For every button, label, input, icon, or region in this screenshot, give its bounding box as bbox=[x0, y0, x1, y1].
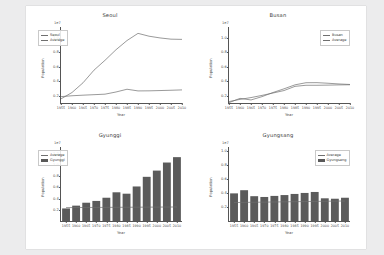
legend-item: Average bbox=[323, 38, 346, 43]
y-axis-tick: 0.8 bbox=[221, 50, 227, 54]
x-axis-tick: 2005 bbox=[331, 224, 339, 228]
tick-mark bbox=[94, 103, 95, 105]
tick-mark bbox=[328, 103, 329, 105]
line-series bbox=[229, 85, 350, 102]
bar bbox=[173, 157, 181, 221]
tick-mark bbox=[234, 221, 235, 223]
x-axis-tick: 1955 bbox=[225, 106, 233, 110]
x-axis-tick: 1965 bbox=[82, 224, 90, 228]
tick-mark bbox=[116, 221, 117, 223]
tick-mark bbox=[86, 221, 87, 223]
tick-mark bbox=[138, 103, 139, 105]
y-axis-tick: 0.8 bbox=[53, 174, 59, 178]
x-axis-tick: 2010 bbox=[341, 224, 349, 228]
tick-mark bbox=[182, 103, 183, 105]
tick-mark bbox=[227, 165, 229, 166]
tick-mark bbox=[149, 103, 150, 105]
legend-label: Average bbox=[50, 38, 64, 43]
x-axis-tick: 1970 bbox=[260, 224, 268, 228]
tick-mark bbox=[105, 103, 106, 105]
series-canvas bbox=[61, 27, 182, 103]
x-axis-tick: 1960 bbox=[240, 224, 248, 228]
tick-mark bbox=[295, 103, 296, 105]
line-swatch-icon bbox=[318, 155, 325, 156]
bar bbox=[230, 193, 238, 221]
legend-label: Average bbox=[332, 38, 346, 43]
tick-mark bbox=[315, 221, 316, 223]
tick-mark bbox=[66, 221, 67, 223]
x-axis-tick: 1995 bbox=[145, 106, 153, 110]
tick-mark bbox=[137, 221, 138, 223]
x-axis-tick: 2010 bbox=[178, 106, 186, 110]
bar bbox=[62, 208, 70, 221]
tick-mark bbox=[284, 103, 285, 105]
y-axis-tick: 0.8 bbox=[221, 163, 227, 167]
x-axis-tick: 1955 bbox=[230, 224, 238, 228]
tick-mark bbox=[325, 221, 326, 223]
x-axis-tick: 1985 bbox=[291, 106, 299, 110]
legend: Busan Average bbox=[320, 30, 350, 46]
bar bbox=[301, 193, 309, 221]
line-series bbox=[61, 89, 182, 96]
x-axis-tick: 1960 bbox=[68, 106, 76, 110]
bar bbox=[102, 198, 110, 221]
tick-mark bbox=[262, 103, 263, 105]
legend-item: Average bbox=[41, 38, 64, 43]
x-axis-tick: 1985 bbox=[290, 224, 298, 228]
bar bbox=[143, 177, 151, 221]
y-axis-tick: 0.8 bbox=[53, 50, 59, 54]
tick-mark bbox=[227, 96, 229, 97]
bar bbox=[240, 190, 248, 221]
tick-mark bbox=[227, 38, 229, 39]
x-axis-tick: 1995 bbox=[311, 224, 319, 228]
x-axis-tick: 1970 bbox=[258, 106, 266, 110]
legend: Seoul Average bbox=[38, 30, 68, 46]
tick-mark bbox=[76, 221, 77, 223]
y-axis-tick: 1.0 bbox=[221, 36, 227, 40]
panel-gyunggi: Gyunggi 1e7 Population Year 0.20.40.60.8… bbox=[34, 130, 186, 244]
bar bbox=[113, 192, 121, 221]
y-axis-tick: 0.6 bbox=[53, 185, 59, 189]
x-axis-tick: 1980 bbox=[280, 224, 288, 228]
tick-mark bbox=[106, 221, 107, 223]
x-axis-tick: 1980 bbox=[112, 224, 120, 228]
bar bbox=[163, 163, 171, 221]
bar bbox=[133, 186, 141, 221]
bar bbox=[331, 199, 339, 221]
tick-mark bbox=[273, 103, 274, 105]
tick-mark bbox=[177, 221, 178, 223]
panel-title: Gyungsang bbox=[202, 132, 354, 138]
tick-mark bbox=[147, 221, 148, 223]
x-axis-tick: 1980 bbox=[112, 106, 120, 110]
plot-area: 0.20.40.60.81.01.21955196019651970197519… bbox=[60, 147, 182, 222]
tick-mark bbox=[305, 221, 306, 223]
x-axis-tick: 1960 bbox=[72, 224, 80, 228]
panel-title: Gyunggi bbox=[34, 132, 186, 138]
x-axis-tick: 2005 bbox=[335, 106, 343, 110]
legend: Average Gyungsang bbox=[315, 150, 350, 166]
x-axis-tick: 1965 bbox=[250, 224, 258, 228]
y-axis-exponent: 1e7 bbox=[222, 21, 229, 25]
x-axis-tick: 1960 bbox=[236, 106, 244, 110]
panel-title: Busan bbox=[202, 12, 354, 18]
tick-mark bbox=[59, 199, 61, 200]
tick-mark bbox=[227, 151, 229, 152]
x-axis-tick: 1965 bbox=[247, 106, 255, 110]
x-axis-tick: 1990 bbox=[300, 224, 308, 228]
plot-area: 0.20.40.60.81.01955196019651970197519801… bbox=[60, 27, 182, 104]
tick-mark bbox=[227, 81, 229, 82]
line-swatch-icon bbox=[323, 40, 330, 41]
bar bbox=[250, 196, 258, 221]
y-axis-exponent: 1e7 bbox=[54, 141, 61, 145]
tick-mark bbox=[157, 221, 158, 223]
tick-mark bbox=[264, 221, 265, 223]
tick-mark bbox=[227, 52, 229, 53]
tick-mark bbox=[274, 221, 275, 223]
y-axis-label: Population bbox=[209, 177, 213, 196]
legend-item: Gyungsang bbox=[318, 158, 347, 163]
y-axis-tick: 0.4 bbox=[221, 191, 227, 195]
x-axis-tick: 2000 bbox=[153, 224, 161, 228]
y-axis-exponent: 1e7 bbox=[54, 21, 61, 25]
tick-mark bbox=[339, 103, 340, 105]
tick-mark bbox=[116, 103, 117, 105]
